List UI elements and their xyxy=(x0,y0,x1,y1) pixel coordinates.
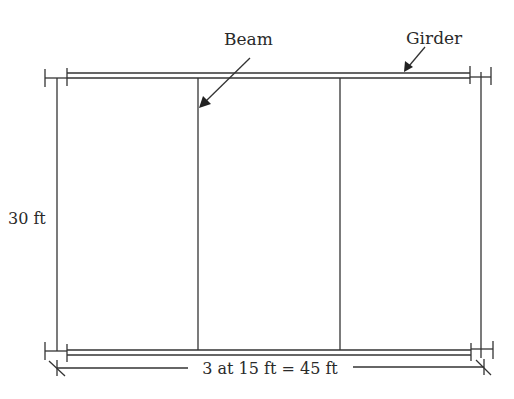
top-girder xyxy=(67,73,470,78)
framing-plan-diagram: Beam Girder 30 ft 3 at 15 ft = 45 ft xyxy=(0,0,514,399)
girder-arrow-icon xyxy=(404,47,425,72)
right-edge-beam xyxy=(470,72,493,358)
girder-label: Girder xyxy=(406,28,463,48)
tick-marks xyxy=(45,66,493,362)
beam-label: Beam xyxy=(224,29,273,49)
left-edge-beam xyxy=(45,78,67,351)
bottom-girder xyxy=(67,350,471,355)
beam-arrow-icon xyxy=(199,58,250,108)
height-dimension-label: 30 ft xyxy=(8,209,46,228)
width-dimension-label: 3 at 15 ft = 45 ft xyxy=(202,359,338,378)
